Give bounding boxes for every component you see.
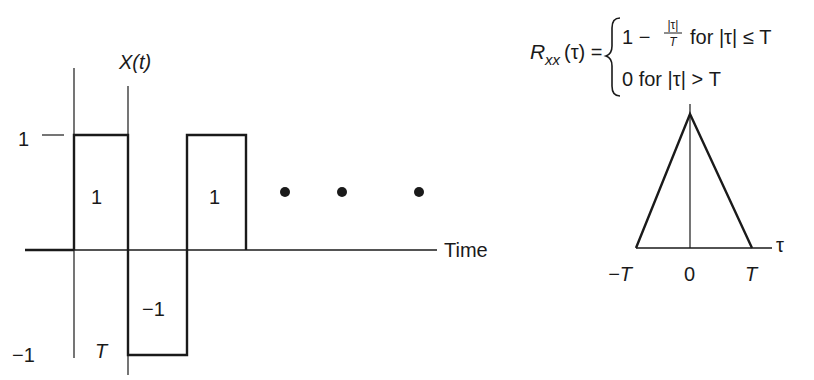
autocorrelation-triangle — [636, 114, 752, 248]
case1-prefix: 1 − — [622, 26, 650, 48]
case1-frac-num: |τ| — [668, 18, 679, 32]
case2: 0 for |τ| > T — [622, 68, 721, 90]
tick-neg-T: −T — [608, 263, 634, 285]
tick-pos-T: T — [745, 263, 759, 285]
right-plot: R xx (τ) = 1 − |τ| T for |τ| ≤ T 0 for |… — [530, 18, 784, 285]
pulse-label-3: 1 — [209, 186, 220, 208]
left-plot: X(t) 1 −1 T 1 −1 1 Time — [12, 51, 488, 375]
case1-condition: for |τ| ≤ T — [690, 26, 772, 48]
formula-arg: (τ) = — [564, 41, 602, 63]
signal-label: X(t) — [118, 51, 151, 73]
diagram-canvas: X(t) 1 −1 T 1 −1 1 Time R xx (τ) = 1 − |… — [0, 0, 814, 380]
y-tick-neg-label: −1 — [12, 344, 35, 366]
tick-zero: 0 — [684, 263, 695, 285]
pulse-label-2: −1 — [142, 298, 165, 320]
tau-axis-label: τ — [776, 234, 784, 256]
continuation-dot — [337, 187, 347, 197]
period-label: T — [95, 340, 109, 362]
x-axis-label: Time — [444, 239, 488, 261]
waveform-path — [74, 135, 246, 355]
continuation-dot — [280, 187, 290, 197]
case-brace — [606, 18, 620, 96]
pulse-label-1: 1 — [91, 186, 102, 208]
formula-lhs: R — [530, 40, 545, 63]
case1-frac-den: T — [669, 35, 678, 49]
continuation-dot — [414, 187, 424, 197]
formula-subscript: xx — [544, 51, 561, 68]
y-tick-pos-label: 1 — [18, 128, 29, 150]
